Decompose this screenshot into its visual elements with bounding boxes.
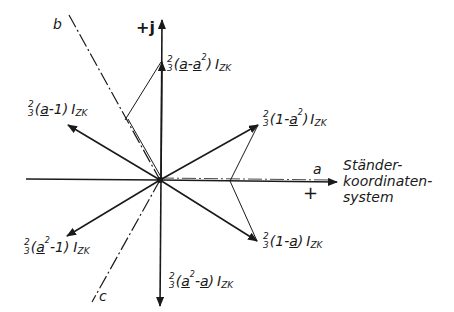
vector-1-minus-a xyxy=(160,180,257,241)
vector-a-minus-1 xyxy=(68,125,160,180)
phasor-diagram xyxy=(0,0,454,312)
fraction: 23 xyxy=(263,110,269,128)
system-label-line-1: Ständer- xyxy=(343,157,443,173)
label-vector-a-minus-a2: 23 (a-a2) IZK xyxy=(167,55,231,73)
fraction: 23 xyxy=(167,55,173,73)
real-axis-left xyxy=(26,179,160,180)
fraction: 23 xyxy=(169,272,175,290)
fraction: 23 xyxy=(24,238,30,256)
vector-1-minus-a2 xyxy=(160,125,258,180)
b-axis-double-line xyxy=(128,119,161,177)
label-vector-a-minus-1: 23 (a-1) IZK xyxy=(28,100,87,118)
label-vector-1-minus-a: 23 (1-a) IZK xyxy=(263,232,322,250)
c-axis-line xyxy=(92,180,160,302)
system-label-line-2: koordinaten- xyxy=(343,173,443,189)
vector-a-minus-a2 xyxy=(161,62,162,180)
vector-a2-minus-1 xyxy=(67,180,160,236)
vector-a2-minus-a xyxy=(160,180,161,306)
b-axis-label: b xyxy=(53,17,62,31)
a-axis-label: a xyxy=(313,162,322,176)
fraction: 23 xyxy=(28,100,34,118)
label-vector-1-minus-a2: 23 (1-a2) IZK xyxy=(263,110,327,128)
imag-axis-label: +j xyxy=(136,20,155,36)
origin-point xyxy=(157,177,163,183)
fraction: 23 xyxy=(263,232,269,250)
label-vector-a2-minus-1: 23 (a2-1) IZK xyxy=(24,238,90,256)
construction-line-upper-left xyxy=(125,62,161,120)
system-label-line-3: system xyxy=(343,189,443,205)
b-axis-line xyxy=(69,15,160,180)
coordinate-system-label: Ständer- koordinaten- system xyxy=(343,157,443,205)
c-axis-label: c xyxy=(99,289,107,303)
real-axis-plus-sign: + xyxy=(303,184,318,202)
label-vector-a2-minus-a: 23 (a2-a) IZK xyxy=(169,272,233,290)
